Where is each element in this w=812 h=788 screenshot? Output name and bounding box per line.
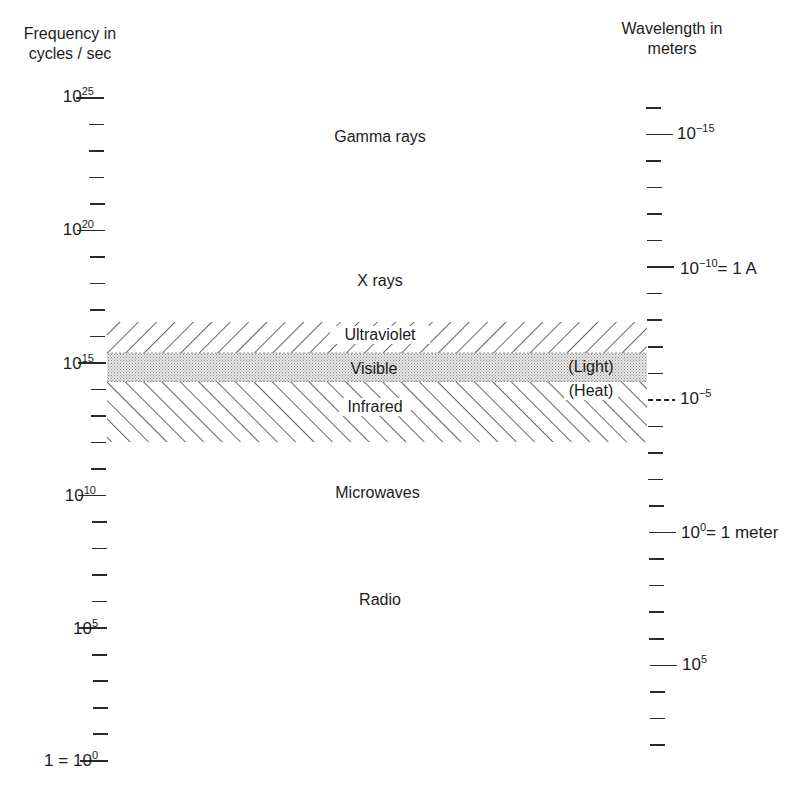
right-minor-tick [649, 611, 664, 613]
region-label-visible: Visible [343, 360, 405, 378]
right-major-tick [646, 134, 673, 136]
region-note-heat: (Heat) [564, 382, 618, 400]
region-label-radio: Radio [340, 591, 420, 609]
left-minor-tick [91, 468, 106, 470]
left-minor-tick [92, 654, 107, 656]
region-label-xray: X rays [330, 272, 430, 290]
right-minor-tick [650, 691, 665, 693]
right-minor-tick [646, 107, 661, 109]
left-minor-tick [92, 601, 107, 603]
left-tick-label-25: 1025 [63, 87, 94, 107]
left-minor-tick [90, 203, 105, 205]
right-minor-tick [648, 426, 663, 428]
left-minor-tick [91, 415, 106, 417]
right-major-tick [649, 532, 676, 534]
left-minor-tick [89, 177, 104, 179]
region-label-ultraviolet: Ultraviolet [330, 326, 430, 344]
right-minor-tick [647, 187, 662, 189]
right-minor-tick [650, 718, 665, 720]
right-minor-tick [647, 293, 662, 295]
left-tick-label-5: 105 [73, 619, 98, 639]
left-minor-tick [90, 256, 105, 258]
left-minor-tick [92, 574, 107, 576]
left-tick-label-15: 1015 [63, 354, 94, 374]
right-tick-label-0: 100= 1 meter [681, 523, 778, 543]
left-tick-label-0: 1 = 100 [44, 751, 98, 771]
left-tick-label-20: 1020 [63, 220, 94, 240]
left-minor-tick [89, 124, 104, 126]
left-tick-label-10: 1010 [65, 486, 96, 506]
right-major-tick [650, 665, 677, 667]
right-minor-tick [649, 505, 664, 507]
right-tick-label-m15: 10−15 [677, 124, 715, 144]
left-minor-tick [90, 283, 105, 285]
left-minor-tick [92, 548, 107, 550]
right-minor-tick [647, 213, 662, 215]
right-minor-tick [648, 452, 663, 454]
right-major-tick [648, 399, 675, 401]
right-minor-tick [649, 585, 664, 587]
right-minor-tick [650, 744, 665, 746]
left-minor-tick [90, 309, 105, 311]
right-minor-tick [648, 373, 663, 375]
right-tick-label-m10: 10−10= 1 A [680, 259, 757, 279]
right-minor-tick [648, 479, 663, 481]
left-minor-tick [92, 521, 107, 523]
right-tick-label-5: 105 [682, 655, 707, 675]
left-minor-tick [89, 150, 104, 152]
region-label-gamma: Gamma rays [320, 128, 440, 146]
left-minor-tick [93, 707, 108, 709]
region-label-microwaves: Microwaves [315, 484, 440, 502]
right-minor-tick [649, 638, 664, 640]
left-minor-tick [93, 680, 108, 682]
right-major-tick [647, 266, 674, 268]
right-minor-tick [649, 558, 664, 560]
right-minor-tick [648, 346, 663, 348]
left-minor-tick [90, 336, 105, 338]
region-label-infrared: Infrared [339, 398, 411, 416]
left-minor-tick [91, 389, 106, 391]
left-minor-tick [93, 733, 108, 735]
right-minor-tick [647, 319, 662, 321]
right-minor-tick [646, 160, 661, 162]
left-minor-tick [91, 442, 106, 444]
right-minor-tick [647, 240, 662, 242]
right-tick-label-m5: 10−5 [680, 389, 711, 409]
region-note-light: (Light) [562, 358, 620, 376]
